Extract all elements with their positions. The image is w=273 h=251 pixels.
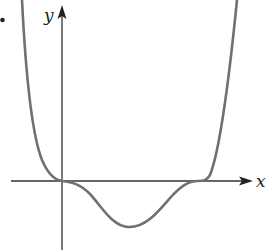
function-curve [22,0,237,227]
graph-canvas: y x [0,0,273,251]
bullet-marker [0,18,5,23]
x-axis-label: x [256,171,266,191]
y-axis-label: y [43,5,54,25]
